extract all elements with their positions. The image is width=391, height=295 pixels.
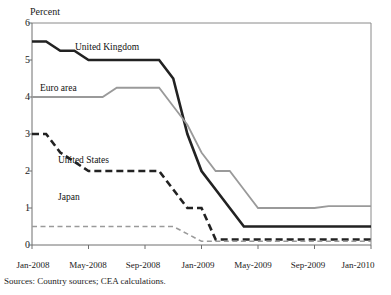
series-lines: [32, 42, 371, 242]
plot-area: [0, 0, 391, 295]
series-line-euro-area: [32, 88, 371, 208]
axis-ticks: [28, 23, 371, 249]
source-note: Sources: Country sources; CEA calculatio…: [4, 276, 166, 287]
series-line-united-kingdom: [32, 42, 371, 227]
chart-figure: Percent 6 5 4 3 2 1 0 Jan-2008 May-2008 …: [0, 0, 391, 295]
series-line-united-states: [32, 134, 371, 239]
